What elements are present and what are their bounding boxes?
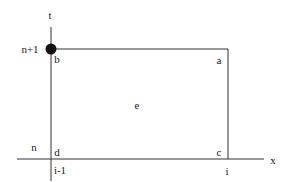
diagram-svg <box>0 0 293 182</box>
corner-label-b: b <box>54 54 60 65</box>
tick-label-i: i <box>225 166 228 177</box>
tick-label-n: n <box>31 142 37 153</box>
x-axis-label: x <box>270 155 276 166</box>
diagram-canvas: t x n+1 n i-1 i a b c d e <box>0 0 293 182</box>
corner-label-d: d <box>54 147 60 158</box>
center-label-e: e <box>135 100 140 111</box>
tick-label-i-minus-1: i-1 <box>54 165 66 176</box>
t-axis-label: t <box>48 10 51 21</box>
corner-label-a: a <box>217 55 222 66</box>
corner-label-c: c <box>217 147 222 158</box>
tick-label-n-plus-1: n+1 <box>21 44 38 55</box>
